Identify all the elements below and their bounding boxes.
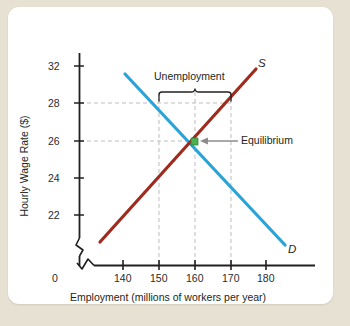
equilibrium-point-marker	[191, 138, 198, 145]
y-axis-title: Hourly Wage Rate ($)	[18, 101, 30, 231]
x-tick-label-150: 150	[150, 273, 168, 284]
y-tick-label-22: 22	[48, 210, 60, 221]
demand-curve	[125, 74, 285, 245]
supply-curve-label: S	[258, 58, 266, 70]
figure-card: 32 28 26 24 22 0 140 150 160 170 180 Hou…	[8, 7, 333, 304]
y-tick-label-32: 32	[48, 61, 60, 72]
equilibrium-arrow	[200, 138, 238, 145]
y-tick-label-24: 24	[48, 173, 60, 184]
x-tick-label-170: 170	[222, 273, 240, 284]
x-tick-label-180: 180	[257, 273, 275, 284]
equilibrium-label: Equilibrium	[241, 135, 293, 146]
supply-demand-chart	[8, 7, 333, 304]
figure-root: 32 28 26 24 22 0 140 150 160 170 180 Hou…	[0, 0, 350, 326]
supply-curve	[100, 69, 256, 242]
y-axis-break-mark	[76, 238, 83, 256]
y-tick-label-28: 28	[48, 98, 60, 109]
unemployment-label: Unemployment	[154, 71, 225, 82]
demand-curve-label: D	[288, 244, 296, 256]
origin-label: 0	[52, 273, 58, 284]
x-axis-title: Employment (millions of workers per year…	[70, 292, 266, 303]
x-tick-label-140: 140	[114, 273, 132, 284]
y-tick-label-26: 26	[48, 136, 60, 147]
x-tick-label-160: 160	[186, 273, 204, 284]
